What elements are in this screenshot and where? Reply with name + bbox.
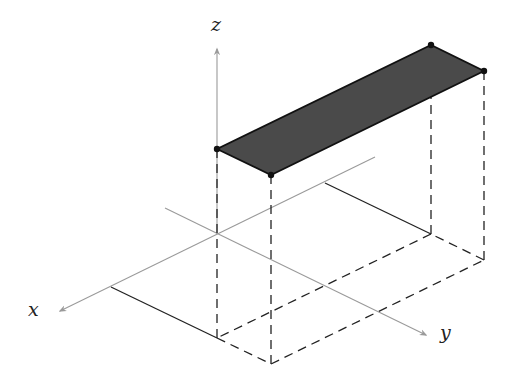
base-solid-edge-x — [111, 287, 217, 338]
base-projection — [111, 183, 484, 364]
base-edge-dc — [431, 234, 484, 260]
corner-c — [428, 42, 434, 48]
x-axis-label: x — [28, 300, 39, 319]
corner-b — [268, 172, 274, 178]
corner-a — [214, 146, 220, 152]
base-edge-ab — [217, 338, 271, 364]
z-axis-label: z — [211, 15, 221, 34]
corner-d — [481, 68, 487, 74]
base-solid-edge-y — [325, 183, 431, 234]
y-axis-label: y — [440, 323, 451, 342]
shaded-plate — [217, 45, 484, 175]
y-axis — [165, 208, 426, 335]
